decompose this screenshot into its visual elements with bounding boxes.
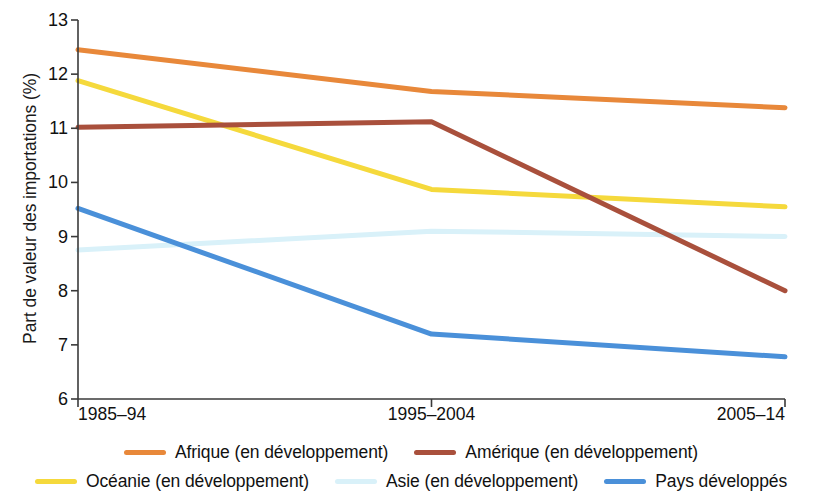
x-axis-tick-label: 2005–14	[717, 404, 785, 425]
y-axis-tick-label: 6	[8, 389, 68, 410]
y-axis-tick-label: 11	[8, 118, 68, 139]
legend-row-2: Océanie (en développement)Asie (en dével…	[0, 467, 822, 496]
plot-area	[78, 20, 785, 399]
legend-label: Pays développés	[655, 471, 787, 492]
y-axis-tick-label: 12	[8, 64, 68, 85]
legend-label: Afrique (en développement)	[175, 442, 388, 463]
legend-item: Pays développés	[604, 471, 787, 492]
legend-color-swatch	[604, 479, 646, 484]
legend-label: Asie (en développement)	[386, 471, 578, 492]
legend-item: Océanie (en développement)	[35, 471, 309, 492]
legend-item: Afrique (en développement)	[124, 442, 388, 463]
legend-color-swatch	[414, 450, 456, 455]
chart-figure: Part de valeur des importations (%) 1312…	[0, 0, 822, 496]
x-axis-tick-label: 1985–94	[78, 404, 146, 425]
y-axis-tick-label: 7	[8, 334, 68, 355]
legend-label: Océanie (en développement)	[86, 471, 309, 492]
series-line	[78, 122, 785, 291]
legend-label: Amérique (en développement)	[465, 442, 698, 463]
y-axis-tick-label: 8	[8, 280, 68, 301]
legend-row-1: Afrique (en développement)Amérique (en d…	[0, 438, 822, 467]
series-lines	[78, 50, 785, 357]
series-line	[78, 50, 785, 108]
legend-color-swatch	[335, 479, 377, 484]
y-axis-tick-label: 9	[8, 226, 68, 247]
y-axis-tick-label: 10	[8, 172, 68, 193]
x-axis-tick-label: 1995–2004	[388, 404, 476, 425]
legend-color-swatch	[35, 479, 77, 484]
series-line	[78, 81, 785, 207]
legend-item: Amérique (en développement)	[414, 442, 698, 463]
y-axis-tick-label: 13	[8, 10, 68, 31]
legend-color-swatch	[124, 450, 166, 455]
plot-svg	[78, 20, 785, 399]
legend-item: Asie (en développement)	[335, 471, 578, 492]
chart-legend: Afrique (en développement)Amérique (en d…	[0, 438, 822, 496]
